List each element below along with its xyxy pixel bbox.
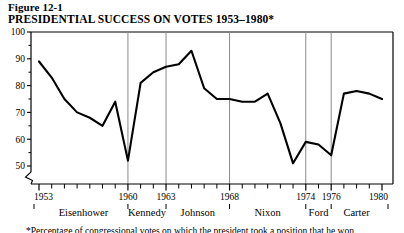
x-tick-label: 1960 (118, 192, 137, 202)
y-tick-labels: 5060708090100 (11, 27, 26, 171)
president-label: Ford (309, 207, 330, 218)
x-tick-label: 1968 (220, 192, 239, 202)
plot-frame-group (31, 32, 393, 184)
x-tick-label: 1974 (296, 192, 315, 202)
president-label: Kennedy (128, 207, 167, 218)
x-tick-label: 1963 (157, 192, 176, 202)
president-labels: EisenhowerKennedyJohnsonNixonFordCarter (59, 207, 371, 218)
y-tick-label: 100 (11, 27, 26, 37)
figure-container: Figure 12-1 PRESIDENTIAL SUCCESS ON VOTE… (0, 0, 404, 233)
president-divider-lines (128, 32, 331, 184)
y-axis-group: 5060708090100 (11, 27, 33, 184)
data-series-line (39, 51, 382, 164)
president-label: Nixon (255, 207, 282, 218)
x-tick-label: 1980 (369, 192, 388, 202)
chart-plot-area: 5060708090100 19531960196319681974197619… (0, 0, 404, 233)
y-tick-label: 50 (16, 161, 26, 171)
x-tick-marks (39, 184, 382, 191)
president-label: Eisenhower (59, 207, 109, 218)
y-tick-label: 90 (16, 54, 26, 64)
x-axis-group: 1953196019631968197419761980 (31, 184, 393, 209)
axis-break-icon (26, 172, 33, 184)
figure-footnote: *Percentage of congressional votes on wh… (26, 226, 356, 233)
x-tick-label: 1953 (34, 192, 53, 202)
x-tick-label: 1976 (322, 192, 341, 202)
y-tick-label: 80 (16, 81, 26, 91)
president-label: Johnson (181, 207, 216, 218)
x-tick-labels: 1953196019631968197419761980 (34, 192, 388, 202)
y-tick-label: 60 (16, 135, 26, 145)
president-label: Carter (343, 207, 370, 218)
y-tick-label: 70 (16, 108, 26, 118)
